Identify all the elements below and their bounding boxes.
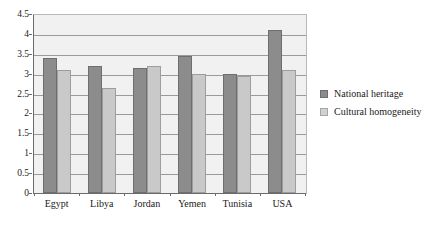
legend-label-cultural-homogeneity: Cultural homogeneity — [334, 106, 422, 117]
bar — [223, 74, 237, 193]
x-tick-mark — [260, 193, 261, 196]
bar — [147, 66, 161, 193]
bar-group — [88, 14, 116, 193]
x-tick-label: Tunisia — [222, 198, 252, 210]
y-tick-mark — [29, 133, 32, 134]
bar — [268, 30, 282, 193]
legend-swatch-icon-national-heritage — [320, 90, 328, 98]
legend-label-national-heritage: National heritage — [334, 88, 403, 99]
bar — [237, 76, 251, 193]
y-tick-mark — [29, 94, 32, 95]
y-tick-label: 2.5 — [17, 89, 29, 99]
y-tick-label: 1.5 — [17, 128, 29, 138]
x-tick-label: Libya — [90, 198, 113, 210]
bars-layer — [34, 14, 305, 193]
y-axis: 00.511.522.533.544.5 — [0, 0, 32, 231]
x-tick-mark — [170, 193, 171, 196]
bar — [102, 88, 116, 193]
bar — [178, 56, 192, 193]
y-tick-label: 3.5 — [17, 49, 29, 59]
x-tick-label: Jordan — [134, 198, 161, 210]
bar — [57, 70, 71, 193]
legend-swatch-icon-cultural-homogeneity — [320, 108, 328, 116]
x-axis: EgyptLibyaJordanYemenTunisiaUSA — [34, 198, 305, 218]
bar — [282, 70, 296, 193]
bar — [43, 58, 57, 193]
legend-item-national-heritage: National heritage — [320, 88, 438, 99]
y-tick-mark — [29, 173, 32, 174]
y-tick-mark — [29, 113, 32, 114]
bar — [133, 68, 147, 193]
chart-legend: National heritage Cultural homogeneity — [320, 88, 438, 124]
bar-group — [133, 14, 161, 193]
x-tick-mark — [124, 193, 125, 196]
bar — [192, 74, 206, 193]
x-tick-label: Egypt — [45, 198, 69, 210]
x-tick-mark — [79, 193, 80, 196]
bar-group — [223, 14, 251, 193]
y-tick-mark — [29, 74, 32, 75]
y-tick-mark — [29, 153, 32, 154]
bar-group — [268, 14, 296, 193]
bar — [88, 66, 102, 193]
y-tick-mark — [29, 14, 32, 15]
legend-item-cultural-homogeneity: Cultural homogeneity — [320, 106, 438, 117]
bar-group — [178, 14, 206, 193]
x-tick-mark — [305, 193, 306, 196]
y-tick-mark — [29, 54, 32, 55]
x-tick-label: USA — [272, 198, 292, 210]
y-tick-label: 0.5 — [17, 168, 29, 178]
y-tick-mark — [29, 193, 32, 194]
bar-group — [43, 14, 71, 193]
y-tick-label: 4.5 — [17, 9, 29, 19]
x-tick-label: Yemen — [178, 198, 206, 210]
bar-chart: 00.511.522.533.544.5 EgyptLibyaJordanYem… — [0, 0, 439, 231]
x-tick-mark — [215, 193, 216, 196]
x-tick-mark — [34, 193, 35, 196]
y-tick-mark — [29, 34, 32, 35]
